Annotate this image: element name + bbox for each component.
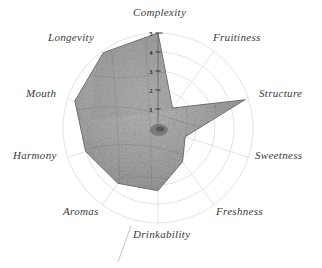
polygon-edge-shade [90, 30, 178, 120]
axis-label-sweetness: Sweetness [255, 149, 302, 161]
data-polygon-group [60, 25, 260, 200]
axis-label-freshness: Freshness [216, 205, 263, 217]
axis-label-mouth: Mouth [26, 87, 56, 99]
axis-label-aromas: Aromas [63, 205, 99, 217]
axis-label-complexity: Complexity [133, 6, 186, 18]
axis-label-drinkability: Drinkability [133, 228, 190, 240]
axis-label-fruitiness: Fruitiness [213, 31, 261, 43]
axis-label-structure: Structure [259, 87, 302, 99]
tick-label-2: 2 [149, 87, 152, 94]
tick-label-1: 1 [149, 106, 152, 113]
drinkability-leader-line [118, 226, 131, 262]
radar-chart: 1 2 3 4 5 Complexity Fruitiness Structur… [0, 0, 322, 268]
axis-label-longevity: Longevity [48, 31, 94, 43]
axis-label-harmony: Harmony [13, 149, 57, 161]
